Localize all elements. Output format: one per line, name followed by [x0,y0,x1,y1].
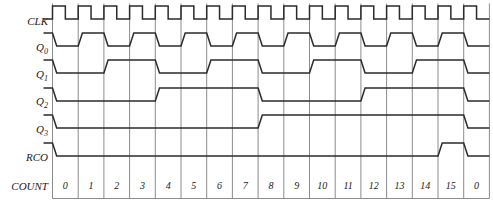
count-cell-7: 7 [232,180,258,191]
count-cell-6: 6 [207,180,233,191]
count-cell-16: 0 [464,180,490,191]
waveform-q2 [44,88,490,101]
count-cell-15: 15 [438,180,464,191]
timing-diagram: CLK Q0 Q1 Q2 Q3 RCO COUNT 01234567891011… [0,0,493,212]
count-cell-4: 4 [155,180,181,191]
count-cell-11: 11 [335,180,361,191]
count-cell-3: 3 [130,180,156,191]
count-cell-12: 12 [361,180,387,191]
count-cell-0: 0 [53,180,79,191]
count-cell-8: 8 [258,180,284,191]
count-cell-14: 14 [412,180,438,191]
count-cell-1: 1 [78,180,104,191]
waveform-rco [44,143,490,156]
count-cell-5: 5 [181,180,207,191]
waveform-clk [44,6,490,19]
count-cell-9: 9 [284,180,310,191]
count-cell-2: 2 [104,180,130,191]
waveform-q3 [44,115,490,128]
count-cell-13: 13 [387,180,413,191]
waveform-q1 [44,60,490,73]
waveform-q0 [44,33,490,46]
count-cell-10: 10 [310,180,336,191]
